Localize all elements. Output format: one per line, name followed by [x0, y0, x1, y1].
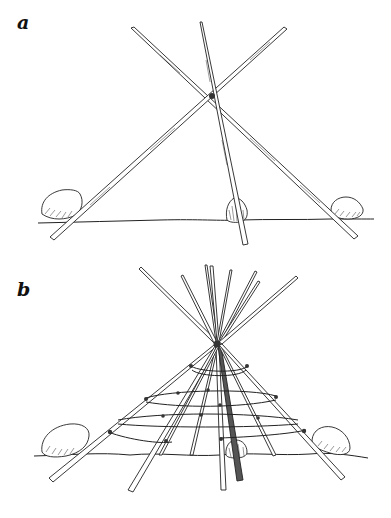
- panel-b-frame: [34, 265, 368, 492]
- hoop-2: [146, 391, 276, 398]
- illustration: [0, 0, 391, 518]
- pole-a-3: [200, 22, 248, 245]
- panel-a-tripod: [38, 22, 374, 245]
- pole-b-2: [128, 346, 218, 492]
- lashing-a: [209, 93, 215, 99]
- hoop-3: [118, 414, 298, 420]
- hoop-3-front: [118, 424, 298, 427]
- hoop-2-front: [146, 400, 276, 406]
- ground-line-a: [38, 219, 374, 223]
- poles-b: [49, 344, 345, 492]
- pole-b-8: [159, 346, 219, 455]
- pole-tips-b: [139, 265, 298, 345]
